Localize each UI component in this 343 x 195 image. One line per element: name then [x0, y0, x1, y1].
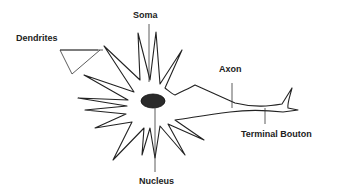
dendrites-leader-line: [60, 50, 103, 74]
label-dendrites: Dendrites: [16, 33, 58, 43]
label-terminal-bouton: Terminal Bouton: [241, 129, 312, 139]
neuron-diagram: [0, 0, 343, 195]
label-nucleus: Nucleus: [139, 176, 174, 186]
label-axon: Axon: [219, 64, 242, 74]
nucleus-shape: [141, 94, 165, 108]
label-soma: Soma: [133, 10, 158, 20]
neuron-body-outline: [78, 32, 298, 160]
